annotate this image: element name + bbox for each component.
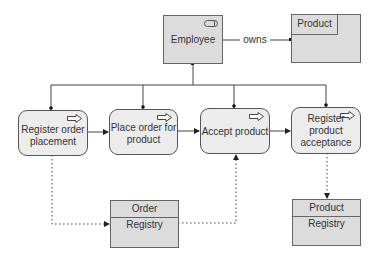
owns-relation-label: owns	[240, 34, 270, 46]
process-label-line: product	[292, 125, 360, 137]
process-label-line: placement	[19, 136, 87, 148]
product-node[interactable]: Product	[291, 14, 361, 63]
order-registry-node[interactable]: Order Registry	[110, 200, 179, 248]
toggle-icon	[204, 20, 218, 27]
registry-subtitle: Registry	[111, 219, 178, 231]
registry-divider	[293, 216, 360, 217]
registry-subtitle: Registry	[293, 218, 360, 230]
process-register-product-acceptance[interactable]: Register product acceptance	[291, 107, 361, 154]
registry-title: Product	[293, 202, 360, 214]
registry-title: Order	[111, 203, 178, 215]
arrow-right-outline-icon	[67, 114, 82, 123]
process-register-order-placement[interactable]: Register order placement	[18, 110, 88, 156]
employee-node[interactable]: Employee	[163, 15, 223, 64]
process-label-line: Register order	[19, 124, 87, 136]
process-label-line: acceptance	[292, 137, 360, 149]
registry-divider	[111, 217, 178, 218]
process-label-line: Register	[292, 113, 360, 125]
employee-label: Employee	[164, 34, 222, 46]
process-accept-product[interactable]: Accept product	[200, 108, 270, 154]
arrow-right-outline-icon	[249, 112, 264, 121]
process-label-line: product	[110, 134, 177, 146]
product-registry-node[interactable]: Product Registry	[292, 199, 361, 246]
arrow-right-outline-icon	[157, 113, 172, 122]
process-place-order-for-product[interactable]: Place order for product	[109, 109, 178, 155]
product-label: Product	[291, 14, 338, 35]
process-label-line: Accept product	[201, 126, 269, 138]
process-label-line: Place order for	[110, 122, 177, 134]
